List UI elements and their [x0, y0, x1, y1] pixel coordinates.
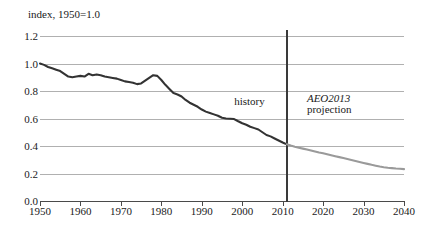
annotation-history: history	[234, 95, 265, 108]
data-series-layer	[0, 0, 444, 244]
annotation-projection-line2: projection	[307, 103, 352, 116]
chart-container: index, 1950=1.0 1.21.00.80.60.40.20.0 19…	[0, 0, 444, 244]
data-series-line	[287, 144, 404, 169]
